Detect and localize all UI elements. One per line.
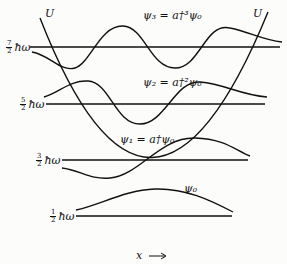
energy-label-5-2: 52ħω — [20, 97, 45, 112]
potential-label-left: U — [45, 8, 54, 19]
potential-label-right: U — [253, 8, 262, 19]
x-axis-label: x — [136, 250, 142, 261]
energy-label-1-2: 12ħω — [50, 209, 75, 224]
diagram-drawing — [0, 0, 287, 264]
psi3-label: ψ₃ = a†³ψ₀ — [143, 10, 202, 21]
psi2-label: ψ₂ = a†²ψ₀ — [143, 77, 202, 88]
harmonic-oscillator-diagram: U U 72ħω 52ħω 32ħω 12ħω ψ₃ = a†³ψ₀ ψ₂ = … — [0, 0, 287, 264]
psi0-wavefunction — [76, 189, 233, 212]
psi0-label: ψ₀ — [184, 183, 197, 194]
energy-label-3-2: 32ħω — [36, 153, 61, 168]
energy-label-7-2: 72ħω — [6, 40, 31, 55]
psi1-label: ψ₁ = a†ψ₀ — [120, 134, 174, 145]
